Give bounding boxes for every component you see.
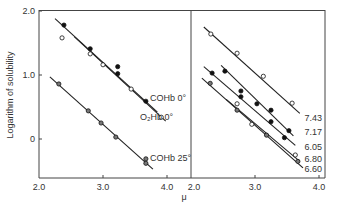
data-point — [239, 89, 243, 93]
data-point — [129, 87, 133, 91]
series-labels: COHb 0°O₂Hb 0°COHb 25°7.437.176.056.806.… — [140, 93, 322, 174]
data-point — [116, 72, 120, 76]
x-tick-label: 2.0 — [33, 182, 46, 192]
y-tick-label: 1.0 — [22, 70, 35, 80]
x-tick-label: 4.0 — [313, 182, 326, 192]
data-point — [290, 101, 294, 105]
data-point — [114, 135, 118, 139]
data-point — [208, 81, 212, 85]
data-point — [269, 120, 273, 124]
y-axis-label: Logarithm of solubility — [5, 51, 15, 139]
series-label: 7.43 — [304, 113, 322, 123]
series-label: O₂Hb 0° — [140, 112, 174, 122]
data-point — [86, 109, 90, 113]
data-point — [62, 23, 66, 27]
series-label: 6.60 — [304, 164, 322, 174]
x-tick-label: 3.0 — [97, 182, 110, 192]
data-point — [269, 108, 273, 112]
y-tick-label: 0 — [30, 134, 35, 144]
y-tick-label: 2.0 — [22, 6, 35, 16]
data-point — [250, 122, 254, 126]
data-point — [210, 71, 214, 75]
data-point — [101, 63, 105, 67]
data-point — [255, 102, 259, 106]
data-point — [144, 161, 148, 165]
data-point — [144, 157, 148, 161]
x-axis-label: μ — [181, 192, 186, 202]
series-label: 6.05 — [304, 142, 322, 152]
x-tick-label: 3.0 — [249, 182, 262, 192]
data-point — [223, 69, 227, 73]
data-point — [57, 82, 61, 86]
data-point — [60, 36, 64, 40]
data-point — [261, 74, 265, 78]
data-point — [235, 102, 239, 106]
solubility-chart: 2.01.002.03.04.02.03.04.0 COHb 0°O₂Hb 0°… — [0, 0, 337, 207]
data-point — [282, 136, 286, 140]
data-point — [296, 159, 300, 163]
data-point — [235, 51, 239, 55]
data-point — [144, 99, 148, 103]
data-point — [116, 65, 120, 69]
x-tick-label: 4.0 — [161, 182, 174, 192]
data-point — [239, 95, 243, 99]
x-tick-label: 2.0 — [188, 182, 201, 192]
data-point — [287, 129, 291, 133]
data-point — [88, 52, 92, 56]
series-label: 7.17 — [304, 127, 322, 137]
data-point — [293, 153, 297, 157]
series-label: COHb 0° — [150, 93, 187, 103]
fit-line — [204, 27, 300, 113]
data-point — [88, 47, 92, 51]
data-point — [264, 133, 268, 137]
series-label: COHb 25° — [150, 153, 192, 163]
fit-line — [204, 67, 296, 146]
data-point — [99, 121, 103, 125]
data-point — [235, 108, 239, 112]
series-label: 6.80 — [304, 154, 322, 164]
data-point — [209, 32, 213, 36]
